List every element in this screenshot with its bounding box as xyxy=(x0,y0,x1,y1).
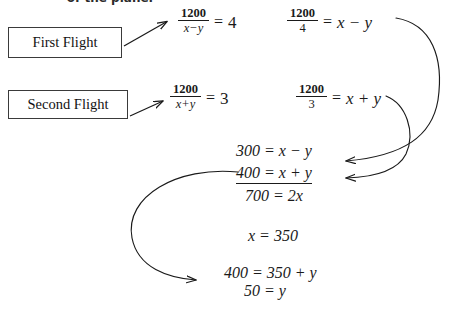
arrow-second-flight-pointer xyxy=(130,101,163,116)
equals-sign: = xyxy=(332,90,341,106)
fraction-denominator: 3 xyxy=(296,96,327,111)
fraction-first-flight-rearranged: 1200 4 xyxy=(287,7,318,36)
solution-x: x = 350 xyxy=(248,228,298,244)
fraction-second-flight-rearranged: 1200 3 xyxy=(296,83,327,112)
system-of-equations: 300 = x − y 400 = x + y 700 = 2x xyxy=(236,140,312,207)
equals-sign: = xyxy=(206,90,215,106)
fraction-first-flight-setup: 1200 x−y xyxy=(178,7,209,36)
equation-result: x − y xyxy=(337,14,372,31)
system-sum: 700 = 2x xyxy=(236,184,312,207)
fraction-denominator: 4 xyxy=(287,20,318,35)
label-box-second-flight[interactable]: Second Flight xyxy=(8,90,128,119)
solution-substitution: 400 = 350 + y xyxy=(224,265,317,281)
equation-second-flight-setup: 1200 x+y = 3 xyxy=(170,84,229,113)
fraction-numerator: 1200 xyxy=(170,83,201,96)
arrow-first-flight-pointer xyxy=(124,22,167,47)
equation-result: 4 xyxy=(228,14,237,31)
arrow-curve-to-substitution xyxy=(131,171,238,280)
solution-y: 50 = y xyxy=(244,283,286,299)
equals-sign: = xyxy=(323,14,332,30)
equals-sign: = xyxy=(214,14,223,30)
label-box-second-flight-text: Second Flight xyxy=(28,96,109,113)
fraction-numerator: 1200 xyxy=(178,7,209,20)
fraction-denominator: x−y xyxy=(178,20,209,35)
system-equation-2-wrapper: 400 = x + y xyxy=(236,162,312,185)
system-equation-2: 400 = x + y xyxy=(236,162,312,185)
equation-second-flight-rearranged: 1200 3 = x + y xyxy=(296,84,381,113)
worksheet-canvas: of the plane. First Flight Second Flight… xyxy=(0,0,450,311)
equation-result: 3 xyxy=(220,90,229,107)
header-text-fragment: of the plane. xyxy=(40,0,180,5)
fraction-denominator: x+y xyxy=(170,96,201,111)
fraction-numerator: 1200 xyxy=(287,7,318,20)
equation-first-flight-setup: 1200 x−y = 4 xyxy=(178,8,237,37)
fraction-second-flight-setup: 1200 x+y xyxy=(170,83,201,112)
system-equation-1: 300 = x − y xyxy=(236,140,312,162)
fraction-numerator: 1200 xyxy=(296,83,327,96)
equation-result: x + y xyxy=(346,90,381,107)
label-box-first-flight-text: First Flight xyxy=(33,34,98,51)
equation-first-flight-rearranged: 1200 4 = x − y xyxy=(287,8,372,37)
label-box-first-flight[interactable]: First Flight xyxy=(8,27,122,58)
